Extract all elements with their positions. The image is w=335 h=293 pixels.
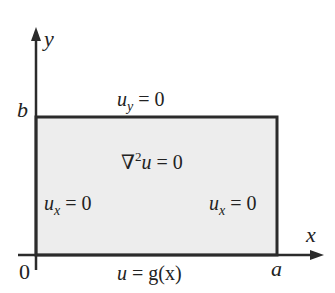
pde-label: ∇2u = 0 [121,150,183,172]
top-boundary-condition: uy = 0 [117,89,165,114]
left-boundary-condition: ux = 0 [44,193,92,218]
x-axis-arrow-icon [310,250,324,260]
b-label: b [17,99,28,121]
domain-rectangle [36,117,277,255]
y-axis-label: y [44,28,54,50]
a-label: a [271,258,282,280]
right-boundary-condition: ux = 0 [209,193,257,218]
y-axis-arrow-icon [31,27,41,41]
x-axis-label: x [306,224,316,246]
origin-label: 0 [19,261,30,283]
bottom-boundary-condition: u = g(x) [117,263,182,283]
